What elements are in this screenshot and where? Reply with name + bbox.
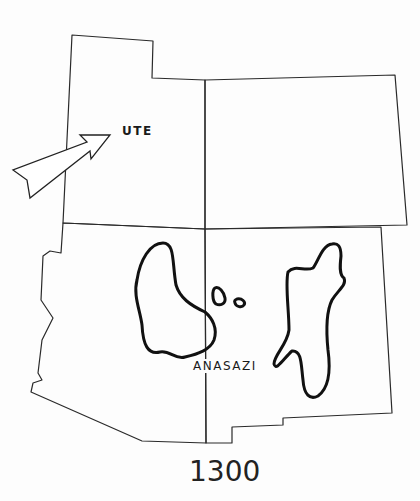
- colorado-border: [205, 75, 407, 229]
- anasazi-region-center-small: [213, 288, 225, 305]
- new-mexico-border: [205, 227, 392, 443]
- anasazi-region-east: [274, 244, 345, 398]
- ute-label: UTE: [122, 124, 153, 138]
- year-caption: 1300: [189, 455, 260, 488]
- map-canvas: [0, 0, 420, 501]
- anasazi-label: ANASAZI: [192, 359, 258, 373]
- migration-arrow-icon: [13, 135, 110, 198]
- arizona-border: [31, 223, 206, 443]
- anasazi-region-west: [136, 243, 215, 358]
- anasazi-region-center-dot: [235, 299, 245, 307]
- map-figure: UTE ANASAZI 1300: [0, 0, 420, 501]
